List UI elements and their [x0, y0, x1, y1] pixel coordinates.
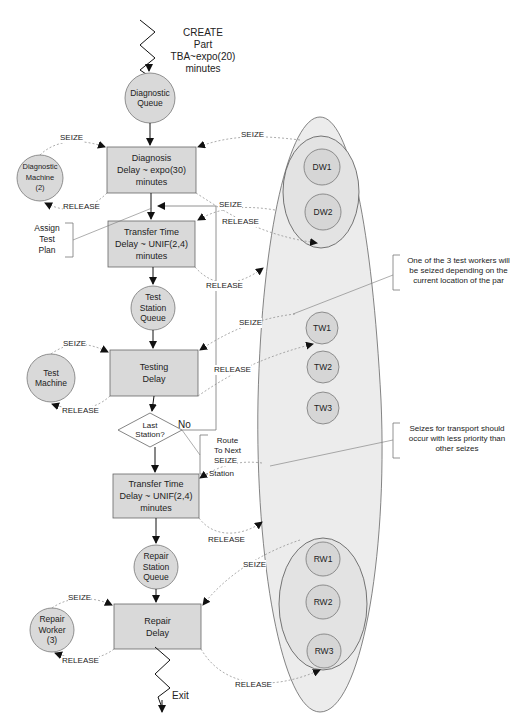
route-label-top: Route To Next: [205, 436, 250, 456]
diagnostic-queue-label: Diagnostic Queue: [125, 73, 175, 123]
release-label-repair-worker: RELEASE: [62, 656, 99, 666]
flow-diagram-canvas: [0, 0, 519, 725]
decision-no-label: No: [178, 419, 191, 431]
release-label-tw: RELEASE: [214, 365, 251, 375]
test-machine-label: Test Machine: [27, 354, 75, 402]
seize-label-transfer1: SEIZE: [219, 200, 242, 210]
seize-label-diag-machine: SEIZE: [60, 133, 83, 143]
create-zigzag-icon: [140, 20, 155, 76]
tw3-label: TW3: [307, 392, 339, 424]
note-transport-priority: Seizes for transport should occur with l…: [398, 424, 516, 454]
assign-test-plan-label: Assign Test Plan: [30, 223, 64, 256]
diagnosis-box-label: Diagnosis Delay ~ expo(30) minutes: [107, 147, 196, 193]
dw1-label: DW1: [304, 149, 340, 185]
release-label-test-machine: RELEASE: [62, 406, 99, 416]
seize-label-tw: SEIZE: [239, 318, 262, 328]
test-station-queue-label: Test Station Queue: [131, 286, 175, 330]
seize-label-rw: SEIZE: [243, 560, 266, 570]
release-label-dw: RELEASE: [222, 217, 259, 227]
seize-label-test-machine: SEIZE: [63, 339, 86, 349]
rw3-label: RW3: [307, 634, 341, 668]
transfer-box-2-label: Transfer Time Delay ~ UNIF(2,4) minutes: [113, 474, 199, 518]
rw2-label: RW2: [306, 585, 340, 619]
diagnostic-machine-label: Diagnostic Machine (2): [17, 155, 63, 201]
seize-label-repair-worker: SEIZE: [68, 593, 91, 603]
seize-label-dw: SEIZE: [241, 130, 264, 140]
assign-test-plan-bracket: [65, 223, 73, 257]
release-label-transfer1: RELEASE: [206, 281, 243, 291]
note-test-workers: One of the 3 test workers will be seized…: [398, 256, 519, 286]
dw2-label: DW2: [305, 194, 341, 230]
release-label-rw: RELEASE: [235, 680, 272, 690]
repair-box-label: Repair Delay: [114, 604, 201, 649]
release-label-transfer2: RELEASE: [208, 535, 245, 545]
seize-label-transfer2: SEIZE: [214, 456, 237, 466]
tw2-label: TW2: [307, 351, 339, 383]
decision-label: Last Station?: [125, 418, 175, 442]
repair-worker-label: Repair Worker (3): [30, 608, 74, 652]
testing-box-label: Testing Delay: [110, 350, 198, 396]
route-label-station: Station: [209, 469, 234, 479]
create-label: CREATE Part TBA~expo(20) minutes: [163, 27, 243, 75]
transfer-box-1-label: Transfer Time Delay ~ UNIF(2,4) minutes: [108, 221, 195, 267]
tw1-label: TW1: [306, 312, 338, 344]
exit-zigzag-icon: [155, 647, 170, 705]
exit-label: Exit: [172, 690, 189, 702]
rw1-label: RW1: [306, 542, 340, 576]
release-label-diag-machine: RELEASE: [63, 202, 100, 212]
repair-station-queue-label: Repair Station Queue: [134, 545, 178, 589]
